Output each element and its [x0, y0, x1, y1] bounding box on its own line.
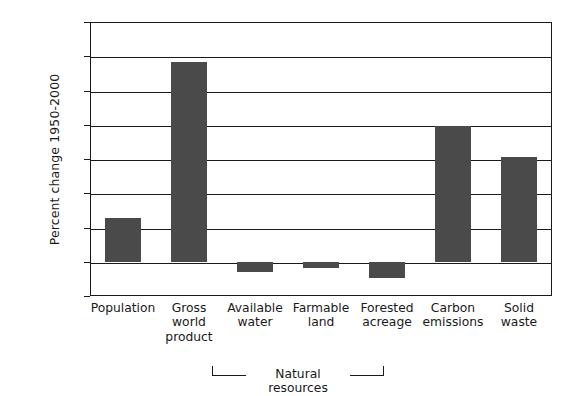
bar — [303, 262, 340, 269]
bar-chart: Percent change 1950-2000 -10001002003004… — [0, 0, 578, 396]
bar — [237, 262, 274, 272]
bracket-label: Natural resources — [248, 367, 348, 395]
x-tick-label-line: Solid — [482, 301, 556, 315]
bar — [171, 62, 208, 262]
natural-resources-bracket: Natural resources — [212, 364, 384, 382]
bar — [435, 126, 472, 261]
x-tick-label-line: Available — [218, 301, 292, 315]
x-tick-label-line: waste — [482, 315, 556, 329]
x-tick-label: Population — [86, 301, 160, 315]
y-tick-mark — [84, 296, 90, 297]
bar — [105, 218, 142, 262]
x-tick-label-line: product — [152, 330, 226, 344]
x-axis-category-labels: PopulationGrossworldproductAvailablewate… — [90, 301, 552, 359]
x-tick-label: Solidwaste — [482, 301, 556, 330]
y-axis-title: Percent change 1950-2000 — [47, 30, 62, 290]
x-tick-label-line: land — [284, 315, 358, 329]
bracket-tick-right-icon — [383, 366, 384, 376]
x-tick-label-line: emissions — [416, 315, 490, 329]
bar-series — [90, 22, 552, 296]
x-tick-label: Farmableland — [284, 301, 358, 330]
x-tick-label-line: water — [218, 315, 292, 329]
x-tick-label: Forestedacreage — [350, 301, 424, 330]
bracket-line-right — [350, 375, 384, 376]
x-tick-label: Carbonemissions — [416, 301, 490, 330]
x-tick-label: Grossworldproduct — [152, 301, 226, 344]
x-tick-label-line: Farmable — [284, 301, 358, 315]
x-tick-label-line: Carbon — [416, 301, 490, 315]
bar — [501, 157, 538, 262]
x-tick-label: Availablewater — [218, 301, 292, 330]
x-tick-label-line: world — [152, 315, 226, 329]
x-tick-label-line: Population — [86, 301, 160, 315]
x-tick-label-line: acreage — [350, 315, 424, 329]
x-tick-label-line: Gross — [152, 301, 226, 315]
bar — [369, 262, 406, 278]
x-tick-label-line: Forested — [350, 301, 424, 315]
bracket-line-left — [212, 375, 246, 376]
